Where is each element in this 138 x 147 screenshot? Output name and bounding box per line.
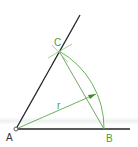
label-c: C xyxy=(54,37,61,48)
segment-cb xyxy=(59,51,104,129)
angle-ray xyxy=(16,15,80,129)
construction-svg: A B C r xyxy=(0,0,138,147)
label-a: A xyxy=(6,132,13,143)
radius-arrow-icon xyxy=(88,94,96,99)
radius-line xyxy=(16,94,96,129)
label-b: B xyxy=(106,133,113,144)
point-a-marker xyxy=(14,127,18,131)
diagram-canvas: A B C r xyxy=(0,0,138,147)
